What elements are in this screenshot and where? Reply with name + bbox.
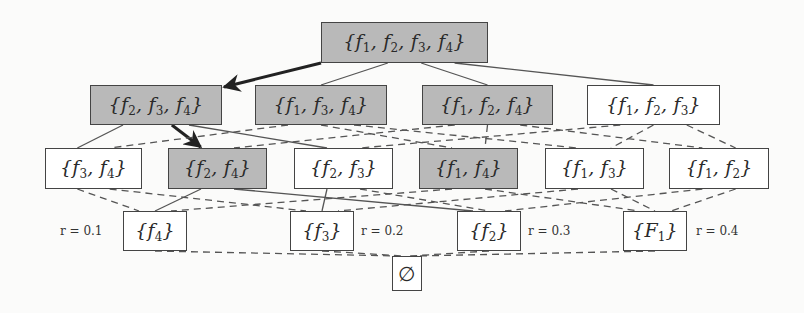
node-empty: ∅ [392,256,422,291]
edge-f1f4-to-f4 [171,189,452,211]
node-label: {f1, f2} [685,156,752,181]
edge-f1f2f3-to-f1f2 [687,125,736,148]
node-label: {f2, f3, f4} [109,93,204,118]
node-label: {f3} [302,219,342,244]
node-f1f2f4: {f1, f2, f4} [422,85,553,125]
node-f2: {f2} [457,211,521,251]
node-label: {f1, f2, f4} [440,93,535,118]
node-label: {f1, f2, f3} [606,93,701,118]
node-f1f2f3f4: {f1, f2, f3, f4} [321,22,488,63]
edge-f3f4-to-f4 [77,189,139,211]
edge-f1f2f3-to-f2f3 [360,125,620,148]
node-label: {f1, f3, f4} [274,93,369,118]
edge-f1f2-to-f2 [505,189,702,211]
edge-f1f2f4-to-f2f4 [234,125,455,148]
edge-f1f2f3f4-to-f2f3f4 [224,63,321,87]
node-label: {f3, f4} [60,156,127,181]
edge-f1f3-to-f3 [338,189,578,211]
r-label: r = 0.4 [696,224,739,238]
node-f3f4: {f3, f4} [45,148,142,189]
node-f2f3: {f2, f3} [294,148,393,189]
node-label: {f4} [135,219,175,244]
node-f1f4: {f1, f4} [419,148,518,189]
edge-f1f2-to-F1 [671,189,736,211]
edge-f2f3f4-to-f2f4 [172,125,201,147]
node-f3: {f3} [290,211,354,251]
node-label: {f2} [469,219,509,244]
r-label: r = 0.2 [361,224,404,238]
node-label: {f2, f3} [310,156,377,181]
r-label: r = 0.3 [528,224,571,238]
edge-f2f4-to-f4 [155,189,201,211]
node-label: {f1, f3} [561,156,628,181]
node-f1f2: {f1, f2} [669,148,769,189]
edge-f1f2f3f4-to-f1f2f3 [455,63,654,85]
node-f1f3: {f1, f3} [545,148,644,189]
node-label: {F1} [632,219,678,244]
node-f1f2f3: {f1, f2, f3} [587,85,720,125]
node-label: {f1, f4} [435,156,502,181]
node-f1f3f4: {f1, f3, f4} [255,85,387,125]
node-f2f3f4: {f2, f3, f4} [90,85,222,125]
edge-f1f4-to-F1 [485,189,639,211]
edge-f2f4-to-f2 [234,189,473,211]
edge-f1f2f3f4-to-f1f2f4 [421,63,487,85]
edge-f1f2f3f4-to-f1f3f4 [321,63,388,85]
edge-f2f3-to-f3 [322,189,327,211]
node-label: {f2, f4} [184,156,251,181]
node-f4: {f4} [123,211,187,251]
r-label: r = 0.1 [60,224,103,238]
edge-f1f2f3-to-f1f3 [611,125,654,148]
node-F1: {F1} [623,211,687,251]
node-label: ∅ [398,262,415,286]
edge-f2f3-to-f2 [360,189,489,211]
edge-f2f3f4-to-f3f4 [77,125,123,148]
node-label: {f1, f2, f3, f4} [343,30,465,55]
node-f2f4: {f2, f4} [168,148,267,189]
